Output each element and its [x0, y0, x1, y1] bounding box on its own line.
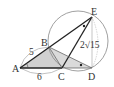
point-label-a: A	[12, 63, 20, 74]
geometry-diagram: A B C D E 5 6 2√15	[0, 0, 114, 87]
angle-dot-d-icon	[80, 64, 82, 66]
length-label-ab: 5	[29, 47, 34, 57]
point-label-d: D	[88, 71, 95, 82]
point-label-c: C	[58, 71, 65, 82]
length-label-ac: 6	[37, 72, 42, 82]
point-label-e: E	[91, 6, 97, 17]
point-label-b: B	[41, 37, 48, 48]
length-label-ce: 2√15	[80, 40, 100, 50]
angle-dot-e-icon	[83, 25, 85, 27]
